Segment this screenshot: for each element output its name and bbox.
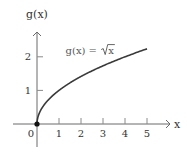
origin-point [34,121,39,126]
y-tick-label: 1 [25,85,31,96]
y-tick-label: 2 [25,51,31,62]
origin-label: 0 [28,128,34,139]
x-tick-label: 4 [122,128,128,139]
x-tick-label: 5 [144,128,150,139]
x-tick-label: 3 [100,128,106,139]
x-ticks: 12345 [56,118,150,139]
annotation-prefix: g(x) = [66,45,101,56]
x-axis-label: x [174,118,181,131]
function-annotation: g(x) = x [66,45,115,56]
series-line-sqrt [37,49,147,124]
x-tick-label: 2 [78,128,84,139]
annotation-radicand: x [108,45,114,56]
y-axis-label: g(x) [26,8,48,21]
sqrt-function-chart: 12345 12 0 x g(x) g(x) = x [0,0,187,154]
x-tick-label: 1 [56,128,62,139]
y-ticks: 12 [25,51,43,96]
